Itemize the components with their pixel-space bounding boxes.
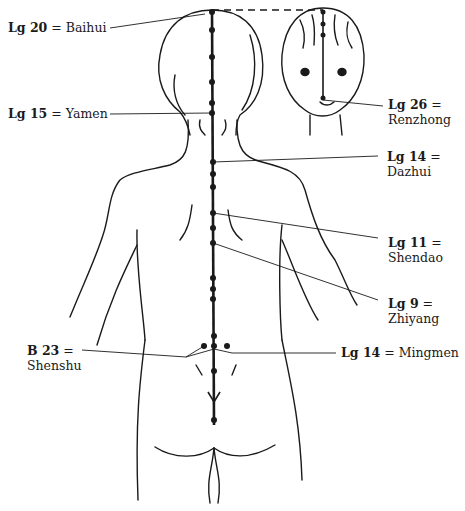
left-arm-edge bbox=[97, 245, 137, 345]
label-lg14-mingmen: Lg 14 = Mingmen bbox=[341, 345, 459, 360]
leader-lines bbox=[82, 14, 383, 357]
label-lg11: Lg 11 =Shendao bbox=[388, 235, 443, 265]
cleft-2 bbox=[209, 448, 214, 503]
label-lg9: Lg 9 =Zhiyang bbox=[388, 296, 439, 326]
back-head-outline-right bbox=[212, 10, 263, 135]
scapula-right bbox=[228, 210, 242, 240]
torso-right bbox=[282, 340, 302, 480]
label-lg26: Lg 26 =Renzhong bbox=[388, 97, 451, 127]
hair-strand bbox=[242, 35, 255, 110]
left-arm-inner bbox=[137, 230, 145, 340]
back-head-outline bbox=[159, 10, 212, 135]
cleft bbox=[214, 448, 219, 503]
mouth bbox=[320, 102, 334, 105]
eye-right bbox=[338, 69, 346, 76]
tick-right bbox=[232, 365, 236, 375]
label-b23: B 23 =Shenshu bbox=[27, 343, 82, 373]
torso-left bbox=[137, 340, 145, 500]
label-lg15: Lg 15 = Yamen bbox=[8, 106, 108, 121]
scapula-left bbox=[180, 205, 192, 240]
neck-front bbox=[310, 115, 342, 135]
governing-vessel-line bbox=[212, 10, 214, 425]
right-arm-inner bbox=[280, 225, 282, 340]
hair-strand bbox=[222, 120, 226, 135]
bangs bbox=[300, 15, 352, 48]
hair-strand bbox=[199, 120, 205, 135]
eye-left bbox=[301, 69, 309, 76]
right-arm-edge bbox=[282, 240, 318, 320]
label-lg14-dazhui: Lg 14 =Dazhui bbox=[387, 149, 441, 179]
body-outline-left bbox=[70, 120, 188, 317]
tick-left bbox=[196, 365, 202, 375]
label-lg20: Lg 20 = Baihui bbox=[8, 20, 106, 35]
